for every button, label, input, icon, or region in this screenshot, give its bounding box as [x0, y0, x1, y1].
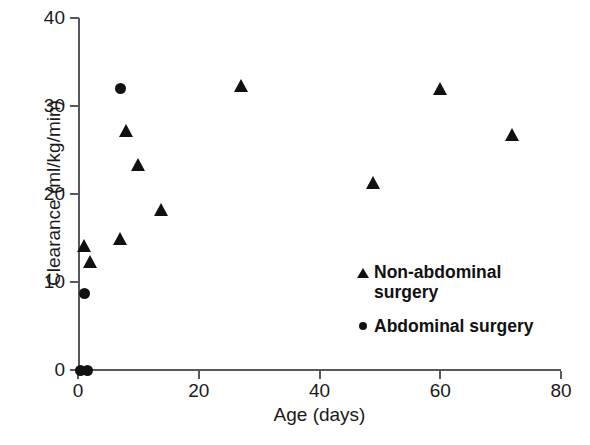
x-axis-title: Age (days): [78, 404, 561, 426]
legend-label: Abdominal surgery: [374, 316, 533, 336]
x-tick-label: 20: [169, 381, 229, 400]
chart-legend: Non-abdominal surgeryAbdominal surgery: [352, 262, 582, 350]
x-tick-mark: [560, 371, 562, 379]
scatter-chart: 010203040 020406080 Clearance (ml/kg/min…: [0, 0, 590, 445]
y-tick-label: 0: [5, 360, 65, 379]
x-tick-label: 0: [48, 381, 108, 400]
data-point-triangle: [77, 239, 91, 252]
y-tick-mark: [70, 17, 79, 19]
data-point-triangle: [505, 128, 519, 141]
data-point-triangle: [113, 232, 127, 245]
x-tick-label: 80: [531, 381, 590, 400]
data-point-triangle: [131, 158, 145, 171]
x-tick-mark: [439, 371, 441, 379]
legend-item: Non-abdominal surgery: [352, 262, 582, 302]
data-point-circle: [82, 365, 93, 376]
data-point-triangle: [234, 79, 248, 92]
x-tick-mark: [198, 371, 200, 379]
y-axis-title: Clearance (ml/kg/min): [43, 43, 65, 343]
x-tick-mark: [319, 371, 321, 379]
legend-item: Abdominal surgery: [352, 316, 582, 336]
data-point-circle: [115, 83, 126, 94]
data-point-triangle: [83, 255, 97, 268]
y-tick-label: 40: [5, 8, 65, 27]
y-tick-mark: [70, 281, 79, 283]
x-tick-label: 40: [290, 381, 350, 400]
data-point-triangle: [366, 176, 380, 189]
data-point-circle: [79, 288, 90, 299]
y-tick-mark: [70, 105, 79, 107]
data-point-triangle: [119, 124, 133, 137]
data-point-triangle: [433, 82, 447, 95]
legend-circle-icon: [352, 316, 374, 330]
y-tick-mark: [70, 193, 79, 195]
legend-label: Non-abdominal surgery: [374, 262, 501, 302]
data-point-triangle: [154, 203, 168, 216]
legend-triangle-icon: [352, 262, 374, 278]
x-tick-label: 60: [410, 381, 470, 400]
